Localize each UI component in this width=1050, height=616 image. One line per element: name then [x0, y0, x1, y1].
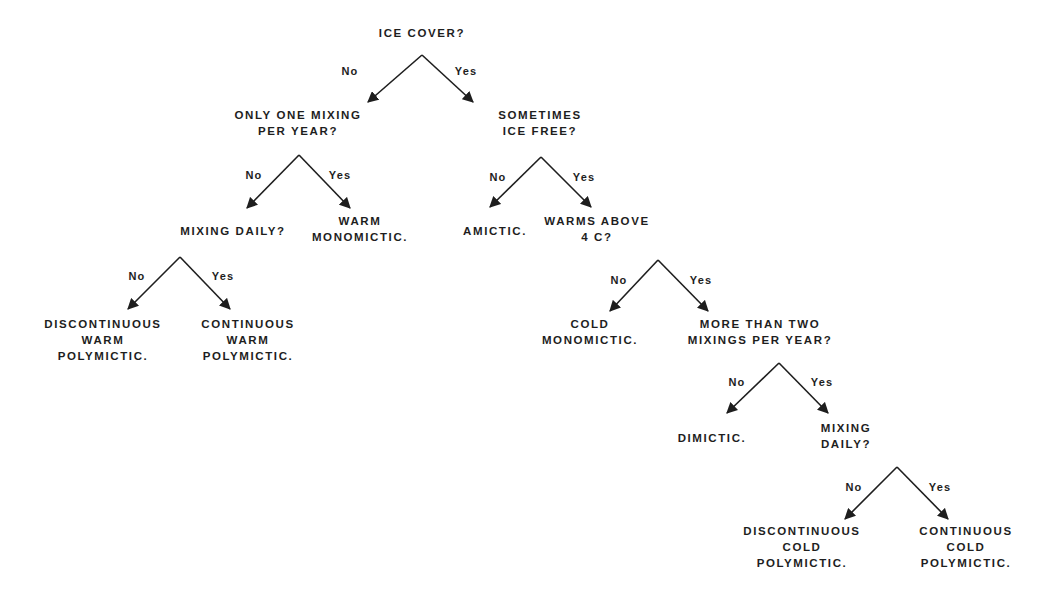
node-text-line: ICE FREE?	[498, 123, 581, 139]
node-text-line: POLYMICTIC.	[919, 555, 1012, 571]
edge-label-yes: Yes	[573, 170, 596, 184]
outcome-node-discontinuous-warm-polymictic: DISCONTINUOUSWARMPOLYMICTIC.	[44, 316, 161, 364]
question-node-mixing-daily-cold: MIXINGDAILY?	[821, 420, 872, 452]
node-text-line: MONOMICTIC.	[542, 332, 638, 348]
node-text-line: POLYMICTIC.	[743, 555, 860, 571]
node-text-line: AMICTIC.	[463, 223, 527, 239]
question-node-mixing-daily-warm: MIXING DAILY?	[180, 223, 285, 239]
question-node-warms-above-4c: WARMS ABOVE4 C?	[544, 213, 649, 245]
node-text-line: SOMETIMES	[498, 107, 581, 123]
node-text-line: MORE THAN TWO	[688, 316, 833, 332]
node-text-line: WARM	[44, 332, 161, 348]
edge-label-yes: Yes	[212, 269, 235, 283]
edge-arrow-mixing_daily_warm-to-discontinuous_warm_polymictic	[128, 257, 180, 309]
question-node-ice-cover: ICE COVER?	[379, 25, 465, 41]
node-text-line: CONTINUOUS	[201, 316, 294, 332]
outcome-node-cold-monomictic: COLDMONOMICTIC.	[542, 316, 638, 348]
edge-label-yes: Yes	[811, 375, 834, 389]
node-text-line: WARM	[312, 213, 408, 229]
node-text-line: POLYMICTIC.	[201, 348, 294, 364]
edge-label-no: No	[489, 170, 506, 184]
edge-label-yes: Yes	[455, 64, 478, 78]
edge-label-no: No	[845, 480, 862, 494]
node-text-line: DIMICTIC.	[678, 430, 747, 446]
node-text-line: ICE COVER?	[379, 25, 465, 41]
question-node-sometimes-ice-free: SOMETIMESICE FREE?	[498, 107, 581, 139]
node-text-line: POLYMICTIC.	[44, 348, 161, 364]
node-text-line: COLD	[919, 539, 1012, 555]
edge-label-no: No	[610, 273, 627, 287]
node-text-line: MIXING	[821, 420, 872, 436]
node-text-line: MIXING DAILY?	[180, 223, 285, 239]
node-text-line: MIXINGS PER YEAR?	[688, 332, 833, 348]
node-text-line: DISCONTINUOUS	[743, 523, 860, 539]
outcome-node-discontinuous-cold-polymictic: DISCONTINUOUSCOLDPOLYMICTIC.	[743, 523, 860, 571]
edge-arrow-ice_cover-to-sometimes_ice_free	[422, 55, 473, 102]
question-node-only-one-mixing: ONLY ONE MIXINGPER YEAR?	[235, 107, 362, 139]
outcome-node-amictic: AMICTIC.	[463, 223, 527, 239]
node-text-line: DISCONTINUOUS	[44, 316, 161, 332]
node-text-line: WARM	[201, 332, 294, 348]
node-text-line: 4 C?	[544, 229, 649, 245]
edge-label-yes: Yes	[929, 480, 952, 494]
edge-label-yes: Yes	[690, 273, 713, 287]
lake-mixing-decision-tree: ICE COVER?ONLY ONE MIXINGPER YEAR?SOMETI…	[0, 0, 1050, 616]
outcome-node-continuous-warm-polymictic: CONTINUOUSWARMPOLYMICTIC.	[201, 316, 294, 364]
edge-arrow-mixing_daily_warm-to-continuous_warm_polymictic	[180, 257, 230, 309]
node-text-line: DAILY?	[821, 436, 872, 452]
edge-label-no: No	[128, 269, 145, 283]
node-text-line: ONLY ONE MIXING	[235, 107, 362, 123]
outcome-node-dimictic: DIMICTIC.	[678, 430, 747, 446]
edge-label-no: No	[728, 375, 745, 389]
question-node-more-than-two-mixings: MORE THAN TWOMIXINGS PER YEAR?	[688, 316, 833, 348]
node-text-line: WARMS ABOVE	[544, 213, 649, 229]
node-text-line: MONOMICTIC.	[312, 229, 408, 245]
edge-label-yes: Yes	[329, 168, 352, 182]
node-text-line: CONTINUOUS	[919, 523, 1012, 539]
outcome-node-continuous-cold-polymictic: CONTINUOUSCOLDPOLYMICTIC.	[919, 523, 1012, 571]
node-text-line: COLD	[542, 316, 638, 332]
node-text-line: COLD	[743, 539, 860, 555]
edge-arrow-ice_cover-to-only_one_mixing	[368, 55, 422, 102]
edge-label-no: No	[245, 168, 262, 182]
outcome-node-warm-monomictic: WARMMONOMICTIC.	[312, 213, 408, 245]
edge-label-no: No	[341, 64, 358, 78]
node-text-line: PER YEAR?	[235, 123, 362, 139]
edges-layer	[0, 0, 1050, 616]
